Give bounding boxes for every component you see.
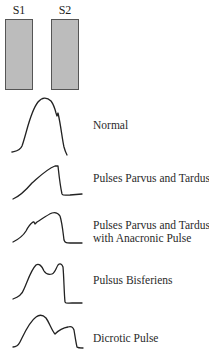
caption-parvus-tardus: Pulses Parvus and Tardus [93, 172, 209, 185]
dicrotic-waveform [13, 315, 83, 348]
caption-anacrotic: Pulses Parvus and Tardus with Anacronic … [93, 219, 209, 244]
normal-waveform [12, 98, 67, 155]
caption-line: Pulsus Bisferiens [93, 274, 173, 287]
caption-line: with Anacronic Pulse [93, 232, 209, 245]
caption-line: Normal [93, 119, 128, 132]
bisferiens-waveform [13, 264, 82, 303]
caption-line: Pulses Parvus and Tardus [93, 219, 209, 232]
caption-line: Pulses Parvus and Tardus [93, 172, 209, 185]
anacrotic-waveform [13, 213, 82, 243]
caption-bisferiens: Pulsus Bisferiens [93, 274, 173, 287]
parvus-tardus-waveform [13, 166, 82, 199]
caption-normal: Normal [93, 119, 128, 132]
caption-line: Dicrotic Pulse [93, 332, 158, 345]
caption-dicrotic: Dicrotic Pulse [93, 332, 158, 345]
